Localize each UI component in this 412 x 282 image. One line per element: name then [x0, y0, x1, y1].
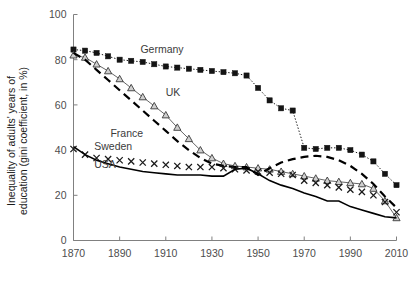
x-tick-label: 1870 — [62, 247, 86, 259]
marker-x — [174, 163, 180, 169]
marker-x — [347, 187, 353, 193]
axes-group: 0204060801001870189019101930195019701990… — [49, 8, 408, 258]
marker-triangle — [105, 67, 112, 73]
marker-square — [279, 106, 284, 111]
marker-square — [163, 64, 168, 69]
marker-triangle — [93, 61, 100, 67]
marker-square — [140, 59, 145, 64]
marker-square — [198, 67, 203, 72]
marker-square — [82, 48, 87, 53]
marker-square — [336, 145, 341, 150]
marker-x — [151, 161, 157, 167]
marker-square — [232, 71, 237, 76]
marker-triangle — [162, 111, 169, 117]
x-tick-label: 1910 — [154, 247, 178, 259]
marker-square — [129, 58, 134, 63]
y-tick-label: 0 — [61, 234, 67, 246]
marker-triangle — [139, 93, 146, 99]
marker-square — [325, 145, 330, 150]
marker-square — [186, 66, 191, 71]
x-tick-label: 1990 — [339, 247, 363, 259]
marker-square — [94, 50, 99, 55]
marker-square — [117, 57, 122, 62]
marker-square — [209, 68, 214, 73]
series-label-uk: UK — [166, 86, 181, 98]
plot-area: 0204060801001870189019101930195019701990… — [0, 0, 412, 282]
marker-x — [370, 192, 376, 198]
x-tick-label: 1970 — [293, 247, 317, 259]
marker-square — [313, 146, 318, 151]
marker-square — [359, 152, 364, 157]
x-tick-label: 1890 — [108, 247, 132, 259]
marker-square — [106, 54, 111, 59]
series-label-usa: USA — [94, 158, 116, 170]
x-tick-label: 2010 — [385, 247, 409, 259]
chart-figure: Inequality of adults' years of education… — [0, 0, 412, 282]
marker-square — [244, 73, 249, 78]
marker-square — [175, 65, 180, 70]
marker-square — [348, 148, 353, 153]
marker-triangle — [128, 84, 135, 90]
marker-x — [209, 164, 215, 170]
marker-square — [152, 62, 157, 67]
marker-x — [359, 189, 365, 195]
marker-square — [302, 145, 307, 150]
marker-x — [128, 158, 134, 164]
marker-triangle — [208, 154, 215, 160]
x-tick-label: 1930 — [200, 247, 224, 259]
marker-x — [163, 162, 169, 168]
marker-x — [186, 164, 192, 170]
marker-square — [290, 108, 295, 113]
y-tick-label: 40 — [55, 144, 67, 156]
marker-square — [394, 183, 399, 188]
y-tick-label: 80 — [55, 54, 67, 66]
series-label-sweden: Sweden — [94, 140, 132, 152]
marker-x — [197, 164, 203, 170]
marker-square — [371, 159, 376, 164]
series-label-france: France — [110, 127, 143, 139]
chart-svg: 0204060801001870189019101930195019701990… — [0, 0, 412, 282]
marker-square — [221, 70, 226, 75]
marker-x — [336, 184, 342, 190]
y-tick-label: 100 — [49, 8, 67, 20]
y-tick-label: 60 — [55, 99, 67, 111]
marker-x — [140, 159, 146, 165]
marker-square — [267, 98, 272, 103]
marker-square — [255, 85, 260, 90]
marker-triangle — [151, 102, 158, 108]
series-label-germany: Germany — [140, 43, 184, 55]
y-tick-label: 20 — [55, 189, 67, 201]
x-tick-label: 1950 — [246, 247, 270, 259]
marker-x — [117, 157, 123, 163]
marker-triangle — [116, 75, 123, 81]
marker-square — [382, 171, 387, 176]
